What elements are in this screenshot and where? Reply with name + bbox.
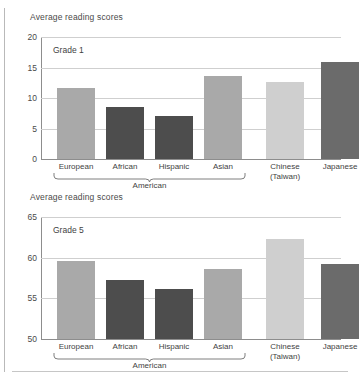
x-axis-tick-label: Japanese	[323, 342, 358, 352]
x-axis-labels: EuropeanAfricanHispanicAsianChinese(Taiw…	[41, 339, 341, 379]
bar	[321, 264, 359, 339]
y-axis-tick-50: 50	[28, 334, 37, 344]
x-axis-tick-label: African	[113, 342, 138, 352]
x-label-line-1: African	[113, 342, 138, 352]
x-axis-tick-label: African	[113, 162, 138, 172]
bar	[155, 116, 193, 159]
bar	[57, 88, 95, 159]
x-axis-tick-label: Hispanic	[159, 342, 190, 352]
x-label-line-1: European	[59, 342, 94, 352]
bar	[57, 261, 95, 339]
gridline-15	[41, 68, 341, 69]
bar	[266, 82, 304, 159]
bar	[266, 239, 304, 339]
x-label-line-2: (Taiwan)	[270, 352, 300, 362]
x-label-line-1: Japanese	[323, 162, 358, 172]
x-label-line-1: Asian	[213, 342, 233, 352]
x-axis-tick-label: Asian	[213, 162, 233, 172]
bar	[204, 76, 242, 159]
chart-panel-grade-5: Average reading scores Grade 5 50556065E…	[12, 192, 348, 370]
x-axis-tick-label: Chinese(Taiwan)	[270, 342, 300, 361]
page-edge-rule	[4, 8, 5, 372]
bar	[321, 62, 359, 159]
plot-area-grade-5: Grade 5 50556065EuropeanAfricanHispanicA…	[41, 217, 341, 339]
x-label-line-1: Chinese	[270, 342, 300, 352]
y-axis-tick-20: 20	[28, 32, 37, 42]
bar	[106, 280, 144, 339]
y-axis-tick-15: 15	[28, 63, 37, 73]
grade-annotation-top: Grade 1	[53, 45, 84, 55]
y-axis-line	[41, 217, 42, 339]
bar	[106, 107, 144, 159]
y-axis-tick-60: 60	[28, 253, 37, 263]
bar	[155, 289, 193, 339]
y-axis-tick-55: 55	[28, 293, 37, 303]
panel-title-top: Average reading scores	[30, 12, 123, 22]
bar	[204, 269, 242, 339]
x-label-line-2: (Taiwan)	[270, 172, 300, 182]
x-label-line-1: Japanese	[323, 342, 358, 352]
grade-annotation-bottom: Grade 5	[53, 225, 84, 235]
gridline-65	[41, 217, 341, 218]
x-axis-tick-label: Asian	[213, 342, 233, 352]
x-axis-tick-label: Japanese	[323, 162, 358, 172]
group-label-american: American	[133, 181, 167, 190]
x-label-line-1: European	[59, 162, 94, 172]
panel-title-bottom: Average reading scores	[30, 192, 123, 202]
y-axis-tick-0: 0	[32, 154, 37, 164]
x-axis-tick-label: European	[59, 342, 94, 352]
x-label-line-1: Hispanic	[159, 342, 190, 352]
x-label-line-1: African	[113, 162, 138, 172]
x-label-line-1: Asian	[213, 162, 233, 172]
y-axis-tick-10: 10	[28, 93, 37, 103]
y-axis-tick-65: 65	[28, 212, 37, 222]
plot-area-grade-1: Grade 1 05101520EuropeanAfricanHispanicA…	[41, 37, 341, 159]
x-axis-tick-label: Chinese(Taiwan)	[270, 162, 300, 181]
group-label-american: American	[133, 361, 167, 370]
gridline-20	[41, 37, 341, 38]
page-bottom-rule	[12, 371, 348, 372]
x-axis-tick-label: Hispanic	[159, 162, 190, 172]
x-axis-tick-label: European	[59, 162, 94, 172]
x-label-line-1: Hispanic	[159, 162, 190, 172]
y-axis-tick-5: 5	[32, 124, 37, 134]
chart-panel-grade-1: Average reading scores Grade 1 05101520E…	[12, 12, 348, 190]
x-label-line-1: Chinese	[270, 162, 300, 172]
